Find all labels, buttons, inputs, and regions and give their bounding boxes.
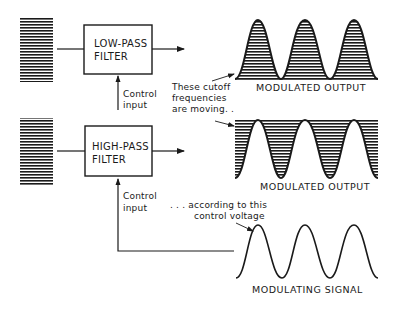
pointer-arrow-bottom-cutoff <box>215 121 234 126</box>
input-signal-bottom <box>20 118 53 185</box>
control-voltage-annotation-line2: control voltage <box>194 211 265 222</box>
low-pass-output-waveform <box>235 18 379 80</box>
high-pass-output-waveform <box>235 120 379 180</box>
control-input-label-bottom-line1: Control <box>123 191 157 202</box>
low-pass-title-line1: LOW-PASS <box>94 37 148 50</box>
control-input-label-top-line2: input <box>123 100 147 111</box>
cutoff-annotation-line1: These cutoff <box>172 82 230 93</box>
cutoff-annotation-line2: frequencies <box>172 93 227 104</box>
control-input-label-top-line1: Control <box>123 89 157 100</box>
high-pass-title-line2: FILTER <box>92 153 126 166</box>
high-pass-output-caption: MODULATED OUTPUT <box>260 181 370 192</box>
cutoff-annotation-line3: are moving. . <box>172 104 234 115</box>
input-signal-top <box>20 17 53 82</box>
control-voltage-annotation-line1: . . . according to this <box>170 200 267 211</box>
low-pass-output-caption: MODULATED OUTPUT <box>256 82 366 93</box>
control-input-label-bottom-line2: input <box>123 203 147 214</box>
pointer-arrow-top-cutoff <box>212 74 234 81</box>
diagram-canvas <box>0 0 398 310</box>
high-pass-title-line1: HIGH-PASS <box>92 140 149 153</box>
modulating-signal-caption: MODULATING SIGNAL <box>252 284 363 295</box>
pointer-arrow-control-voltage <box>236 223 253 231</box>
modulating-signal-waveform <box>236 225 378 278</box>
low-pass-title-line2: FILTER <box>94 50 128 63</box>
